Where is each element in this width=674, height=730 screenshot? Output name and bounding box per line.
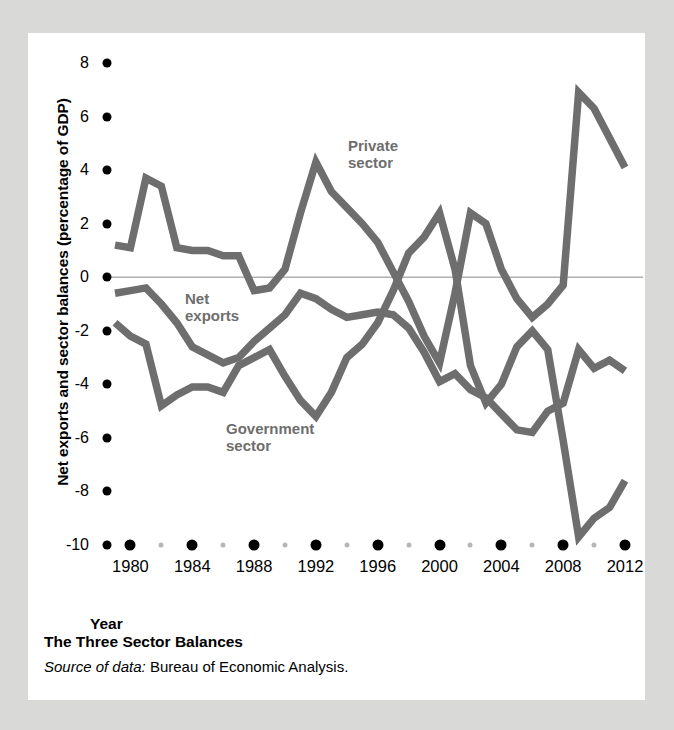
figure-caption-source-prefix: Source of data: [44, 658, 146, 675]
line-chart-svg [28, 33, 645, 563]
x-axis-minor-tick-dot [221, 543, 226, 548]
x-axis-major-tick-dot [372, 540, 383, 551]
x-axis-major-tick-dot [187, 540, 198, 551]
y-axis-tick-label: 2 [53, 215, 89, 233]
series-label-private-sector-line2: sector [348, 155, 398, 172]
x-axis-minor-tick-dot [344, 543, 349, 548]
x-axis-tick-label: 1992 [286, 557, 346, 576]
y-axis-tick-label: -4 [53, 375, 89, 393]
y-axis-tick-dot [103, 326, 112, 335]
x-axis-major-tick-dot [434, 540, 445, 551]
y-axis-tick-dot [103, 59, 112, 68]
series-label-government-sector-line2: sector [226, 438, 314, 455]
figure-caption-source-text: Bureau of Economic Analysis. [146, 658, 349, 675]
x-axis-tick-label: 1980 [100, 557, 160, 576]
x-axis-minor-tick-dot [283, 543, 288, 548]
y-axis-tick-dot [103, 541, 112, 550]
x-axis-tick-label: 1984 [162, 557, 222, 576]
x-axis-minor-tick-dot [406, 543, 411, 548]
x-axis-minor-tick-dot [159, 543, 164, 548]
y-axis-tick-dot [103, 112, 112, 121]
y-axis-tick-dot [103, 433, 112, 442]
series-label-government-sector: Government sector [226, 421, 314, 455]
series-line-government-sector [115, 213, 625, 537]
x-axis-tick-label: 1996 [348, 557, 408, 576]
chart-plot-area: Net exports and sector balances (percent… [28, 33, 645, 563]
x-axis-major-tick-dot [496, 540, 507, 551]
series-label-net-exports-line1: Net [185, 291, 239, 308]
x-axis-minor-tick-dot [468, 543, 473, 548]
y-axis-tick-label: -8 [53, 482, 89, 500]
series-label-government-sector-line1: Government [226, 421, 314, 438]
y-axis-tick-dot [103, 273, 112, 282]
x-axis-tick-label: 2012 [595, 557, 655, 576]
y-axis-tick-dot [103, 166, 112, 175]
x-axis-minor-tick-dot [530, 543, 535, 548]
x-axis-major-tick-dot [558, 540, 569, 551]
y-axis-tick-label: 4 [53, 161, 89, 179]
x-axis-title: Year [90, 615, 123, 633]
series-label-net-exports-line2: exports [185, 308, 239, 325]
x-axis-major-tick-dot [249, 540, 260, 551]
x-axis-major-tick-dot [310, 540, 321, 551]
x-axis-major-tick-dot [620, 540, 631, 551]
y-axis-tick-label: -10 [53, 536, 89, 554]
figure-caption-source: Source of data: Bureau of Economic Analy… [44, 658, 624, 675]
y-axis-tick-label: 0 [53, 268, 89, 286]
y-axis-tick-dot [103, 380, 112, 389]
figure-caption-title: The Three Sector Balances [44, 633, 624, 651]
x-axis-tick-label: 2004 [471, 557, 531, 576]
series-label-private-sector: Private sector [348, 138, 398, 172]
y-axis-tick-dot [103, 487, 112, 496]
y-axis-tick-label: 6 [53, 108, 89, 126]
y-axis-tick-label: -2 [53, 322, 89, 340]
x-axis-minor-tick-dot [592, 543, 597, 548]
x-axis-tick-label: 2000 [410, 557, 470, 576]
x-axis-tick-label: 1988 [224, 557, 284, 576]
figure-card: Net exports and sector balances (percent… [28, 33, 645, 700]
series-label-net-exports: Net exports [185, 291, 239, 325]
x-axis-tick-label: 2008 [533, 557, 593, 576]
figure-caption: The Three Sector Balances Source of data… [44, 633, 624, 675]
series-label-private-sector-line1: Private [348, 138, 398, 155]
y-axis-tick-dot [103, 219, 112, 228]
y-axis-tick-label: 8 [53, 54, 89, 72]
x-axis-major-tick-dot [125, 540, 136, 551]
y-axis-tick-label: -6 [53, 429, 89, 447]
